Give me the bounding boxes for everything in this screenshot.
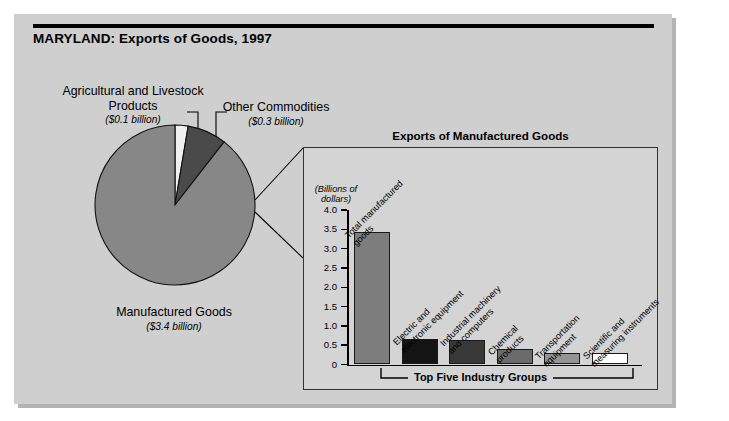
y-tick-mark — [341, 287, 347, 288]
y-tick-label: 1.0 — [303, 320, 337, 331]
y-tick-mark — [341, 209, 347, 210]
bracket-label: Top Five Industry Groups — [303, 371, 658, 383]
bar-total-manufactured-goods — [354, 232, 390, 364]
y-tick-label: 2.5 — [303, 262, 337, 273]
y-tick-mark — [341, 344, 347, 345]
pie-label-agricultural-name: Agricultural and Livestock Products — [58, 84, 208, 113]
y-axis-caption: (Billions of dollars) — [305, 184, 367, 205]
figure-page: MARYLAND: Exports of Goods, 1997 Agricul… — [0, 0, 729, 421]
y-tick-mark — [341, 267, 347, 268]
pie-label-other-commodities: Other Commodities ($0.3 billion) — [210, 100, 342, 128]
y-tick-label: 2.0 — [303, 281, 337, 292]
y-tick-mark — [341, 364, 347, 365]
title-rule — [33, 24, 654, 28]
pie-label-manufactured-amount: ($3.4 billion) — [104, 321, 244, 333]
pie-label-manufactured: Manufactured Goods ($3.4 billion) — [104, 305, 244, 333]
pie-label-other-commodities-amount: ($0.3 billion) — [210, 116, 342, 128]
pie-slice-manufactured — [95, 125, 255, 285]
y-tick-label: 0.5 — [303, 339, 337, 350]
pie-svg — [80, 118, 275, 298]
y-tick-label: 4.0 — [303, 204, 337, 215]
y-tick-label: 1.5 — [303, 301, 337, 312]
y-tick-mark — [341, 325, 347, 326]
y-tick-mark — [341, 248, 347, 249]
pie-label-other-commodities-name: Other Commodities — [210, 100, 342, 115]
pie-chart — [80, 118, 275, 298]
y-tick-mark — [341, 306, 347, 307]
pie-label-agricultural: Agricultural and Livestock Products ($0.… — [58, 84, 208, 126]
y-tick-label: 3.0 — [303, 243, 337, 254]
bracket-label-text: Top Five Industry Groups — [408, 371, 553, 383]
pie-label-agricultural-amount: ($0.1 billion) — [58, 114, 208, 126]
pie-label-manufactured-name: Manufactured Goods — [104, 305, 244, 320]
y-tick-label: 3.5 — [303, 223, 337, 234]
page-title: MARYLAND: Exports of Goods, 1997 — [33, 31, 272, 46]
inset-chart-title: Exports of Manufactured Goods — [303, 129, 658, 142]
